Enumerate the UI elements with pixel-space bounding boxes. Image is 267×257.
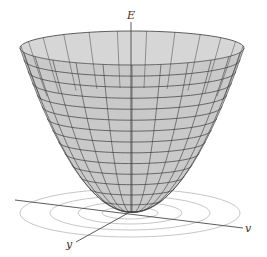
- paraboloid-figure: E v y: [0, 0, 267, 257]
- surface-plot: E v y: [0, 0, 267, 257]
- paraboloid-surface: [20, 31, 244, 212]
- y-axis-label: y: [65, 238, 73, 251]
- e-axis-label: E: [126, 9, 135, 22]
- v-axis-label: v: [245, 222, 252, 235]
